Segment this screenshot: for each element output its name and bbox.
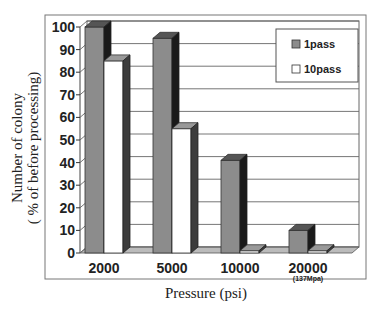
bar-front bbox=[172, 129, 191, 253]
bar-side bbox=[191, 123, 198, 253]
x-tick-sublabel: (137Mpa) bbox=[293, 275, 323, 283]
bar-chart: 0102030405060708090100 20005000100002000… bbox=[0, 0, 378, 313]
bar-side bbox=[123, 55, 130, 253]
x-tick-label: 10000 bbox=[221, 260, 260, 276]
y-tick-label: 10 bbox=[59, 222, 75, 238]
y-tick-label: 60 bbox=[59, 109, 75, 125]
bar-10pass-5000 bbox=[172, 123, 198, 253]
bar-front bbox=[104, 61, 123, 253]
legend-swatch-10pass bbox=[292, 65, 300, 73]
x-tick-label: 2000 bbox=[88, 260, 119, 276]
x-tick-label: 5000 bbox=[156, 260, 187, 276]
x-tick-label: 20000 bbox=[289, 260, 328, 276]
y-axis-title-line1: Number of colony bbox=[9, 93, 25, 203]
bar-1pass-10000 bbox=[221, 154, 247, 253]
legend-label-10pass: 10pass bbox=[304, 63, 341, 75]
bar-front bbox=[221, 160, 240, 253]
y-tick-label: 20 bbox=[59, 200, 75, 216]
bar-side bbox=[240, 154, 247, 253]
bar-front bbox=[153, 38, 172, 253]
y-tick-label: 40 bbox=[59, 155, 75, 171]
bar-front bbox=[289, 230, 308, 253]
y-tick-label: 80 bbox=[59, 64, 75, 80]
bar-front bbox=[85, 27, 104, 253]
legend: 1pass 10pass bbox=[276, 29, 358, 82]
bar-10pass-2000 bbox=[104, 55, 130, 253]
y-axis: 0102030405060708090100 bbox=[52, 19, 80, 261]
y-axis-title-line2: ( % of before processing) bbox=[25, 72, 42, 224]
x-axis-title: Pressure (psi) bbox=[165, 285, 247, 302]
y-tick-label: 0 bbox=[67, 245, 75, 261]
legend-swatch-1pass bbox=[292, 40, 300, 48]
y-tick-label: 70 bbox=[59, 87, 75, 103]
y-tick-label: 100 bbox=[52, 19, 76, 35]
y-tick-label: 30 bbox=[59, 177, 75, 193]
y-tick-label: 90 bbox=[59, 42, 75, 58]
legend-label-1pass: 1pass bbox=[304, 38, 335, 50]
x-axis-labels: 200050001000020000(137Mpa) bbox=[88, 260, 327, 283]
y-tick-label: 50 bbox=[59, 132, 75, 148]
